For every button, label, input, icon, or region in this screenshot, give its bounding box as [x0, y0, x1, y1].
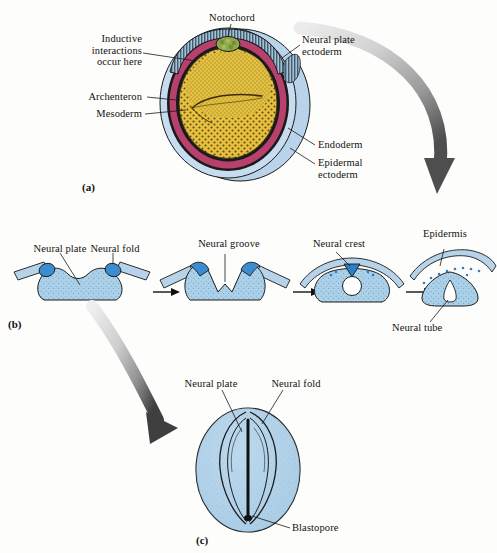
panel-id-c: (c)	[196, 534, 208, 546]
label-neural-plate-c: Neural plate	[168, 378, 254, 390]
figure-canvas	[0, 0, 497, 553]
label-neural-fold-c: Neural fold	[258, 378, 334, 390]
label-mesoderm: Mesoderm	[44, 108, 142, 120]
stage-arrow-1	[153, 288, 180, 296]
stage-neural-plate	[14, 253, 150, 300]
label-archenteron: Archenteron	[42, 91, 142, 103]
panel-a-embryo-cross-section	[143, 24, 455, 194]
stage-neural-tube-closing	[300, 252, 404, 302]
blastopore-mark	[244, 515, 252, 521]
panel-c-dorsal-view	[196, 390, 300, 532]
label-notochord: Notochord	[196, 12, 268, 24]
label-endoderm: Endoderm	[318, 139, 398, 151]
label-inductive-interactions: Inductive interactions occur here	[38, 33, 142, 68]
label-epidermal-ectoderm: Epidermal ectoderm	[318, 157, 404, 180]
label-blastopore: Blastopore	[292, 522, 368, 534]
panel-id-b: (b)	[8, 318, 21, 330]
label-epidermis: Epidermis	[408, 228, 482, 240]
label-neural-tube: Neural tube	[392, 322, 472, 334]
label-neural-groove: Neural groove	[184, 238, 274, 250]
flow-arrow-a-to-b-head	[424, 158, 455, 194]
stage-neural-groove	[160, 254, 290, 300]
figure-neurulation: Notochord Neural plate ectoderm Inductiv…	[0, 0, 497, 553]
label-neural-plate-ectoderm: Neural plate ectoderm	[302, 34, 397, 57]
stage-neural-tube-closed	[410, 249, 496, 322]
label-neural-fold-b: Neural fold	[78, 243, 152, 255]
notochord-body	[216, 37, 240, 52]
neural-tube-lumen-3	[343, 277, 362, 296]
panel-id-a: (a)	[82, 181, 95, 193]
label-neural-crest: Neural crest	[298, 238, 380, 250]
flow-arrow-b-to-c-shaft	[92, 306, 158, 420]
